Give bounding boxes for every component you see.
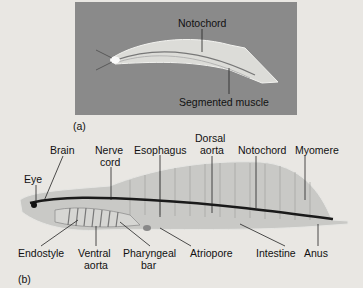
label-dorsal-aorta-1: Dorsal	[195, 132, 225, 144]
label-pharyngeal-bar-2: bar	[141, 259, 156, 271]
label-brain: Brain	[50, 144, 75, 156]
label-ventral-aorta-1: Ventral	[78, 247, 111, 259]
panel-a-body	[96, 29, 278, 94]
panel-b-body	[20, 155, 348, 246]
label-dorsal-aorta-2: aorta	[200, 144, 224, 156]
label-ventral-aorta-2: aorta	[84, 259, 108, 271]
label-intestine: Intestine	[256, 247, 296, 259]
label-pharyngeal-bar-1: Pharyngeal	[123, 247, 176, 259]
label-notochord-a: Notochord	[178, 17, 226, 29]
label-atriopore: Atriopore	[190, 247, 233, 259]
label-segmented-muscle: Segmented muscle	[179, 96, 269, 108]
panel-b-tag: (b)	[18, 273, 31, 285]
label-eye: Eye	[24, 173, 42, 185]
label-endostyle: Endostyle	[18, 247, 64, 259]
label-notochord-b: Notochord	[238, 144, 286, 156]
label-esophagus: Esophagus	[134, 144, 187, 156]
label-myomere: Myomere	[295, 144, 339, 156]
label-nerve-cord-1: Nerve	[95, 144, 123, 156]
label-nerve-cord-2: cord	[100, 156, 120, 168]
label-anus: Anus	[304, 247, 328, 259]
panel-a-tag: (a)	[73, 120, 86, 132]
